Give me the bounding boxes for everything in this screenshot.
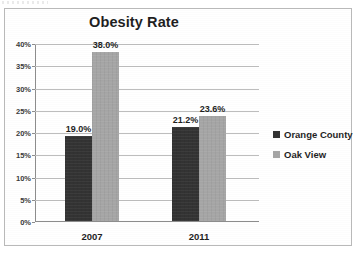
legend-swatch-icon — [273, 151, 280, 158]
bar-fill — [92, 52, 119, 221]
legend-label: Oak View — [284, 149, 326, 160]
y-axis-tick-mark — [32, 133, 35, 134]
bar-value-label: 19.0% — [66, 124, 92, 134]
bar-2007-oak-view[interactable]: 38.0% — [92, 52, 119, 221]
legend-swatch-icon — [273, 131, 280, 138]
chart-container: Obesity Rate 40%35%30%25%20%15%10%5%0% 1… — [4, 8, 352, 246]
x-axis-tick-label-2011: 2011 — [189, 231, 210, 242]
y-axis-tick-label: 35% — [16, 62, 31, 71]
y-axis-tick-mark — [32, 111, 35, 112]
y-axis-tick-mark — [32, 89, 35, 90]
bar-group-2011: 21.2%23.6% — [172, 43, 226, 221]
chart-title: Obesity Rate — [5, 14, 263, 30]
bar-2011-orange-county[interactable]: 21.2% — [172, 127, 199, 221]
legend-item-orange-county[interactable]: Orange County — [273, 129, 353, 140]
legend-item-oak-view[interactable]: Oak View — [273, 149, 353, 160]
bar-fill — [65, 136, 92, 221]
y-axis-tick-label: 0% — [20, 218, 31, 227]
y-axis-tick-label: 20% — [16, 129, 31, 138]
y-axis-tick-label: 40% — [16, 40, 31, 49]
bar-2007-orange-county[interactable]: 19.0% — [65, 136, 92, 221]
y-axis-tick-label: 30% — [16, 84, 31, 93]
bar-2011-oak-view[interactable]: 23.6% — [199, 116, 226, 221]
y-axis-tick-mark — [32, 222, 35, 223]
bar-fill — [172, 127, 199, 221]
x-axis-baseline — [35, 221, 259, 222]
y-axis-tick-mark — [32, 200, 35, 201]
y-axis-tick-label: 15% — [16, 151, 31, 160]
y-axis-tick-label: 10% — [16, 173, 31, 182]
bar-fill — [199, 116, 226, 221]
y-axis-tick-label: 25% — [16, 106, 31, 115]
bar-value-label: 38.0% — [93, 40, 119, 50]
chart-legend: Orange CountyOak View — [273, 129, 353, 169]
legend-label: Orange County — [284, 129, 353, 140]
plot-area: 40%35%30%25%20%15%10%5%0% 19.0%38.0%21.2… — [35, 44, 259, 222]
bar-value-label: 21.2% — [173, 115, 199, 125]
bar-group-2007: 19.0%38.0% — [65, 43, 119, 221]
y-axis-tick-mark — [32, 66, 35, 67]
y-axis-tick-mark — [32, 44, 35, 45]
y-axis-tick-mark — [32, 155, 35, 156]
x-axis-tick-label-2007: 2007 — [81, 231, 102, 242]
y-axis-tick-mark — [32, 178, 35, 179]
scan-artifact — [2, 1, 48, 4]
bar-value-label: 23.6% — [200, 104, 226, 114]
y-axis-tick-label: 5% — [20, 195, 31, 204]
